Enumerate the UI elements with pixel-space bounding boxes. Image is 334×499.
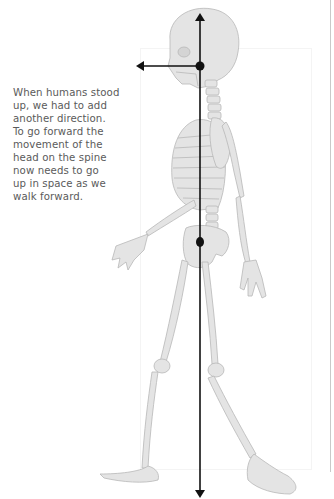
rear-shin <box>208 376 256 458</box>
front-knee <box>154 359 170 373</box>
front-shin <box>142 372 158 468</box>
neck-vertebrae <box>205 80 221 119</box>
rear-arm <box>222 122 266 298</box>
skeleton <box>100 8 296 494</box>
rear-foot <box>247 454 296 494</box>
skeleton-diagram <box>0 0 334 499</box>
skull-icon <box>168 8 239 88</box>
front-foot <box>100 466 159 482</box>
front-femur <box>160 260 188 362</box>
rear-femur <box>202 262 218 364</box>
head-pivot-dot <box>196 62 205 71</box>
pelvis <box>183 225 229 267</box>
pelvis-center-dot <box>196 237 204 247</box>
rear-knee <box>208 363 224 377</box>
front-arm <box>112 200 196 270</box>
